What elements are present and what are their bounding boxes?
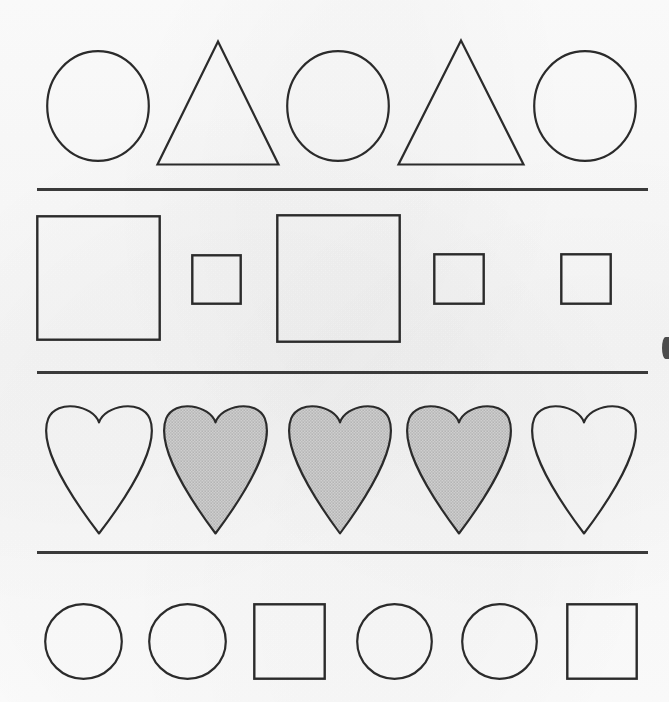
square-shape <box>560 253 612 305</box>
square-shape <box>36 215 161 341</box>
square-outline <box>561 254 610 303</box>
circle-outline <box>47 51 149 161</box>
heart-shape <box>529 399 639 535</box>
square-outline <box>37 216 159 339</box>
divider-3 <box>37 551 648 554</box>
circle-shape <box>461 603 538 680</box>
circle-shape <box>356 603 433 680</box>
circle-outline <box>462 604 537 679</box>
heart-shape <box>404 399 514 535</box>
circle-outline <box>357 604 432 679</box>
triangle-shape <box>397 39 525 166</box>
square-shape <box>566 603 638 680</box>
circle-outline <box>287 51 389 161</box>
circle-shape <box>286 50 390 162</box>
square-shape <box>191 254 242 305</box>
square-outline <box>254 604 324 678</box>
circle-shape <box>44 603 123 680</box>
square-outline <box>434 254 483 303</box>
square-outline <box>277 215 399 341</box>
circle-shape <box>148 603 227 680</box>
square-shape <box>253 603 326 680</box>
circle-shape <box>533 50 637 162</box>
heart-shape <box>286 399 394 535</box>
heart-outline <box>289 406 391 533</box>
heart-shape <box>161 399 270 535</box>
circle-outline <box>534 51 636 161</box>
shapes-worksheet <box>0 0 669 702</box>
circle-outline <box>45 604 122 679</box>
page-edge-artifact <box>662 337 669 359</box>
heart-outline <box>407 406 511 533</box>
square-outline <box>192 255 240 303</box>
heart-outline <box>46 406 152 533</box>
heart-outline <box>164 406 267 533</box>
divider-2 <box>37 371 648 374</box>
triangle-shape <box>156 40 280 166</box>
square-shape <box>433 253 485 305</box>
square-shape <box>276 214 401 343</box>
divider-1 <box>37 188 648 191</box>
heart-outline <box>532 406 636 533</box>
circle-outline <box>149 604 226 679</box>
square-outline <box>567 604 636 678</box>
triangle-outline <box>158 42 279 165</box>
triangle-outline <box>399 41 524 165</box>
circle-shape <box>46 50 150 162</box>
heart-shape <box>43 399 155 535</box>
